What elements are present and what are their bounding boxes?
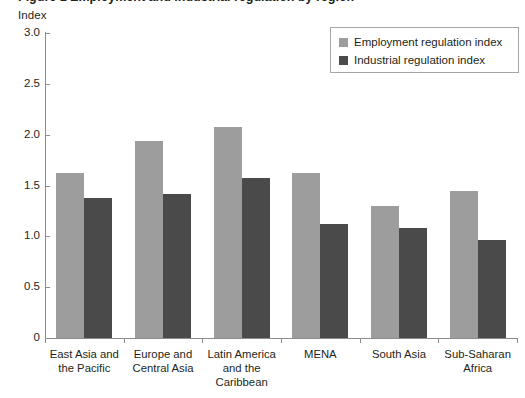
- legend-item: Employment regulation index: [339, 34, 510, 51]
- x-axis-tick: [438, 338, 439, 343]
- bar-dark: [242, 178, 270, 338]
- category-label-line: Africa: [438, 361, 517, 375]
- x-axis-category-label: South Asia: [360, 347, 439, 361]
- legend-item: Industrial regulation index: [339, 52, 510, 69]
- bar-light: [292, 173, 320, 338]
- y-axis-tick-label-text: 2.5: [2, 78, 40, 90]
- x-axis-category-label: Latin Americaand theCaribbean: [202, 347, 281, 389]
- x-axis-category-label: MENA: [281, 347, 360, 361]
- y-axis-tick-label: 3.0: [0, 27, 40, 39]
- x-axis-tick: [124, 338, 125, 343]
- y-axis-tick-label: 1.0: [0, 230, 40, 242]
- category-label-line: Latin America: [202, 347, 281, 361]
- category-label-line: MENA: [281, 347, 360, 361]
- bar-light: [56, 173, 84, 338]
- y-axis-tick-label-text: 1.0: [2, 230, 40, 242]
- bar-chart: Index 3.02.52.01.51.00.50 East Asia andt…: [0, 0, 525, 398]
- bar-dark: [320, 224, 348, 338]
- y-axis-tick-label-text: 0: [2, 332, 40, 344]
- legend-item-label: Industrial regulation index: [354, 55, 485, 67]
- x-axis-category-label: Europe andCentral Asia: [124, 347, 203, 375]
- y-axis-tick-label: 2.0: [0, 129, 40, 141]
- chart-legend: Employment regulation indexIndustrial re…: [330, 27, 519, 73]
- y-axis-tick-label: 0: [0, 332, 40, 344]
- bar-dark: [478, 240, 506, 338]
- y-axis-tick-label-text: 1.5: [2, 180, 40, 192]
- bar-light: [371, 206, 399, 338]
- category-label-line: Caribbean: [202, 375, 281, 389]
- y-axis-tick: [45, 186, 50, 187]
- x-axis-tick: [281, 338, 282, 343]
- x-axis-tick: [517, 338, 518, 343]
- legend-swatch-employment: [339, 38, 348, 47]
- x-axis-tick: [202, 338, 203, 343]
- y-axis-tick-label-text: 3.0: [2, 27, 40, 39]
- bar-dark: [163, 194, 191, 338]
- legend-item-label: Employment regulation index: [354, 37, 502, 49]
- y-axis-tick: [45, 84, 50, 85]
- category-label-line: Central Asia: [124, 361, 203, 375]
- x-axis-tick: [360, 338, 361, 343]
- y-axis-tick-label: 1.5: [0, 180, 40, 192]
- category-label-line: South Asia: [360, 347, 439, 361]
- x-axis-category-label: Sub-SaharanAfrica: [438, 347, 517, 375]
- bar-light: [214, 127, 242, 338]
- y-axis-tick: [45, 236, 50, 237]
- bar-dark: [399, 228, 427, 338]
- y-axis-tick-label-text: 0.5: [2, 281, 40, 293]
- category-label-line: East Asia and: [45, 347, 124, 361]
- y-axis-tick-label-text: 2.0: [2, 129, 40, 141]
- bar-light: [450, 191, 478, 338]
- y-axis-tick: [45, 135, 50, 136]
- y-axis-tick: [45, 287, 50, 288]
- category-label-line: Europe and: [124, 347, 203, 361]
- category-label-line: and the: [202, 361, 281, 375]
- x-axis-tick: [45, 338, 46, 343]
- bar-dark: [84, 198, 112, 338]
- y-axis-tick-label: 0.5: [0, 281, 40, 293]
- bar-light: [135, 141, 163, 338]
- category-label-line: the Pacific: [45, 361, 124, 375]
- y-axis-tick-label: 2.5: [0, 78, 40, 90]
- y-axis-title: Index: [18, 9, 47, 21]
- category-label-line: Sub-Saharan: [438, 347, 517, 361]
- y-axis-tick: [45, 33, 50, 34]
- x-axis-category-label: East Asia andthe Pacific: [45, 347, 124, 375]
- legend-swatch-industrial: [339, 56, 348, 65]
